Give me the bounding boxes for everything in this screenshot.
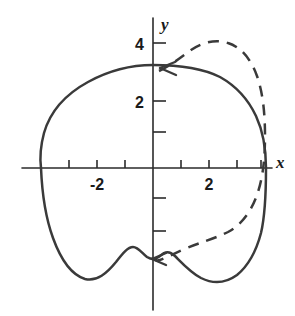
dashed-loop-curve bbox=[154, 41, 265, 260]
y-tick-label-4: 4 bbox=[135, 36, 144, 53]
y-tick-label-2: 2 bbox=[135, 94, 144, 111]
axes-group bbox=[22, 18, 272, 310]
x-tick-label--2: -2 bbox=[90, 176, 104, 193]
x-tick-label-2: 2 bbox=[205, 176, 214, 193]
x-axis-label: x bbox=[275, 153, 285, 172]
figure-root: -2 2 4 2 y x bbox=[0, 0, 295, 316]
y-axis-label: y bbox=[159, 15, 169, 34]
plot-canvas: -2 2 4 2 y x bbox=[0, 0, 295, 316]
x-tick-marks bbox=[69, 160, 261, 168]
